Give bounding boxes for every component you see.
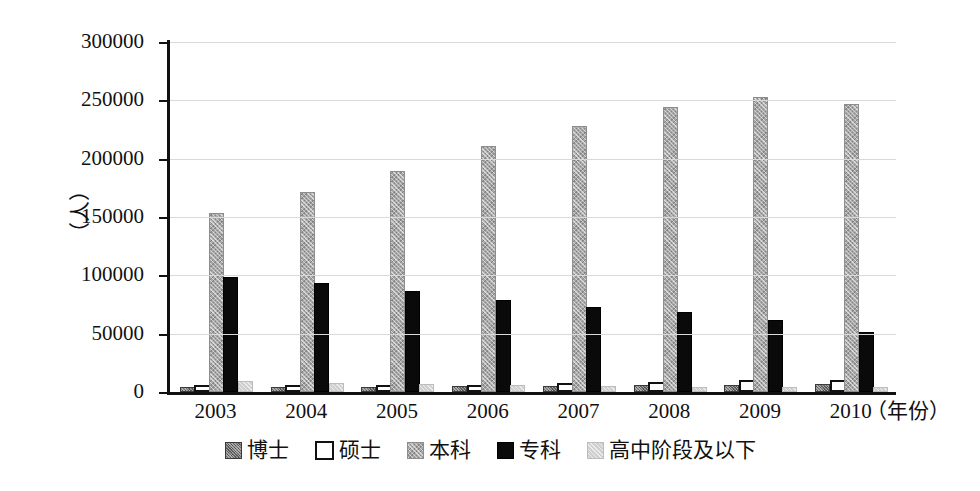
x-tick-label: 2003: [170, 396, 261, 426]
bar: [510, 385, 525, 392]
y-tick-mark: [159, 217, 168, 219]
bar: [572, 126, 587, 392]
y-tick-mark: [159, 42, 168, 44]
x-tick-label: 2008: [624, 396, 715, 426]
bar: [405, 291, 420, 392]
y-tick-mark: [159, 392, 168, 394]
y-tick-label: 150000: [81, 206, 144, 227]
y-tick-label: 0: [134, 381, 145, 402]
x-tick-label: 2004: [261, 396, 352, 426]
bar: [390, 171, 405, 392]
chart-legend: 博士硕士本科专科高中阶段及以下: [0, 438, 980, 462]
bar: [238, 381, 253, 392]
bar: [496, 300, 511, 392]
y-tick-label: 300000: [81, 31, 144, 52]
legend-item[interactable]: 专科: [497, 438, 561, 462]
y-tick-label: 200000: [81, 148, 144, 169]
legend-item[interactable]: 博士: [225, 438, 289, 462]
bar: [209, 213, 224, 392]
legend-item[interactable]: 高中阶段及以下: [587, 438, 756, 462]
y-tick-mark: [159, 100, 168, 102]
gridline: [170, 217, 896, 218]
x-tick-label: 2006: [442, 396, 533, 426]
x-axis-tick-labels: （年份） 20032004200520062007200820092010: [170, 396, 930, 430]
bar: [543, 386, 558, 392]
bar: [815, 384, 830, 392]
gridline: [170, 275, 896, 276]
bar: [180, 387, 195, 392]
bar-chart: （人） 050000100000150000200000250000300000…: [0, 0, 980, 491]
y-tick-mark: [159, 334, 168, 336]
x-axis-line: [167, 392, 896, 395]
x-tick-label: 2007: [533, 396, 624, 426]
bar: [753, 97, 768, 392]
bar: [677, 312, 692, 392]
bar: [873, 387, 888, 392]
gridline: [170, 159, 896, 160]
bar: [419, 384, 434, 392]
legend-label: 硕士: [339, 438, 381, 462]
bar: [271, 387, 286, 392]
bar: [300, 192, 315, 392]
x-tick-label: 2010: [805, 396, 896, 426]
gridline: [170, 334, 896, 335]
legend-item[interactable]: 本科: [407, 438, 471, 462]
legend-swatch-icon: [315, 441, 334, 460]
bar: [329, 383, 344, 392]
y-tick-label: 50000: [92, 323, 145, 344]
bar: [601, 386, 616, 392]
legend-swatch-icon: [225, 442, 242, 459]
y-axis-tick-labels: 050000100000150000200000250000300000: [0, 0, 158, 491]
bar: [844, 104, 859, 392]
gridline: [170, 100, 896, 101]
legend-label: 高中阶段及以下: [609, 438, 756, 462]
x-tick-label: 2009: [715, 396, 806, 426]
legend-label: 博士: [247, 438, 289, 462]
bar: [452, 386, 467, 392]
legend-swatch-icon: [497, 442, 514, 459]
bar: [663, 107, 678, 393]
legend-swatch-icon: [587, 442, 604, 459]
bar: [634, 385, 649, 392]
x-tick-label: 2005: [352, 396, 443, 426]
legend-swatch-icon: [407, 442, 424, 459]
legend-label: 专科: [519, 438, 561, 462]
bar: [314, 283, 329, 392]
plot-area: [170, 42, 896, 392]
bar: [724, 385, 739, 392]
legend-label: 本科: [429, 438, 471, 462]
bar: [361, 387, 376, 393]
y-tick-label: 250000: [81, 89, 144, 110]
y-tick-mark: [159, 275, 168, 277]
bar: [768, 320, 783, 392]
y-tick-mark: [159, 159, 168, 161]
bar: [692, 387, 707, 392]
bar: [481, 146, 496, 392]
gridline: [170, 42, 896, 43]
y-tick-label: 100000: [81, 264, 144, 285]
legend-item[interactable]: 硕士: [315, 438, 381, 462]
bar: [859, 332, 874, 392]
bar: [782, 387, 797, 392]
bar: [586, 307, 601, 392]
